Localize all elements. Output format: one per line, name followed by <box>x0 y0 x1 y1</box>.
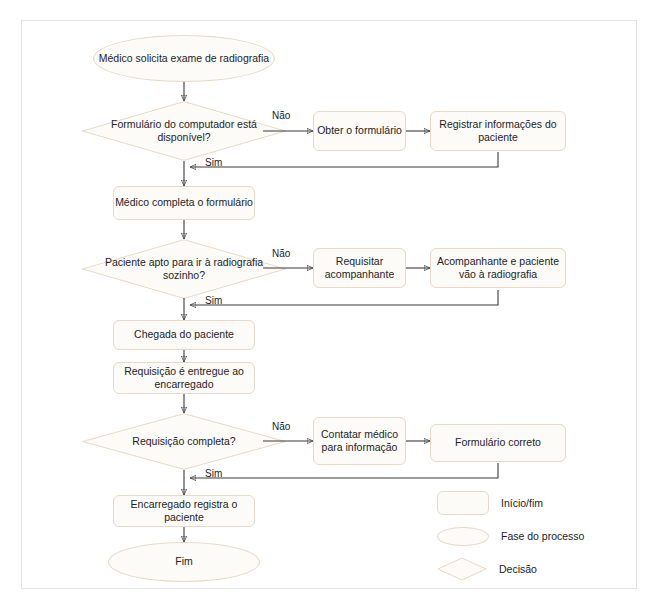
node-encarregado-registra[interactable]: Encarregado registra o paciente <box>113 495 255 527</box>
node-encarregado-registra-label: Encarregado registra o paciente <box>114 498 254 525</box>
node-end-label: Fim <box>175 555 193 568</box>
node-chegada-paciente[interactable]: Chegada do paciente <box>113 320 255 350</box>
legend-swatch-rounded-rect-icon <box>437 491 489 515</box>
node-end[interactable]: Fim <box>108 542 260 582</box>
legend-label-fase-processo: Fase do processo <box>501 530 584 542</box>
node-decision-form-available[interactable]: Formulário do computador está disponível… <box>82 101 286 161</box>
node-decision-patient-alone[interactable]: Paciente apto para ir à radiografia sozi… <box>82 239 286 299</box>
node-registrar-informacoes-label: Registrar informações do paciente <box>431 118 565 145</box>
node-contatar-medico-label: Contatar médico para informação <box>314 428 405 455</box>
node-obter-formulario[interactable]: Obter o formulário <box>313 111 406 151</box>
legend-item-inicio-fim: Início/fim <box>437 490 617 516</box>
diamond-shape <box>437 557 487 581</box>
node-decision-form-available-label: Formulário do computador está disponível… <box>82 118 286 145</box>
legend-label-decisao: Decisão <box>499 563 537 575</box>
legend-item-decisao: Decisão <box>437 556 617 582</box>
node-chegada-paciente-label: Chegada do paciente <box>134 328 234 341</box>
node-formulario-correto[interactable]: Formulário correto <box>430 424 566 462</box>
node-contatar-medico[interactable]: Contatar médico para informação <box>313 417 406 465</box>
legend-label-inicio-fim: Início/fim <box>501 497 543 509</box>
edge-label-d1-yes: Sim <box>205 157 222 168</box>
legend-item-fase-processo: Fase do processo <box>437 523 617 549</box>
node-decision-requisicao-completa-label: Requisição completa? <box>126 435 241 448</box>
edge-label-d1-no: Não <box>272 110 290 121</box>
node-requisicao-entregue-label: Requisição é entregue ao encarregado <box>114 365 254 392</box>
node-acompanhante-paciente-radiografia[interactable]: Acompanhante e paciente vão à radiografi… <box>430 248 566 288</box>
node-formulario-correto-label: Formulário correto <box>455 436 541 449</box>
edge-label-d3-yes: Sim <box>205 468 222 479</box>
legend-swatch-diamond-icon <box>437 557 487 581</box>
node-registrar-informacoes[interactable]: Registrar informações do paciente <box>430 111 566 151</box>
node-acompanhante-paciente-radiografia-label: Acompanhante e paciente vão à radiografi… <box>431 255 565 282</box>
node-decision-patient-alone-label: Paciente apto para ir à radiografia sozi… <box>82 256 286 283</box>
node-start-label: Médico solicita exame de radiografia <box>99 52 269 65</box>
legend-swatch-ellipse-icon <box>437 527 489 546</box>
footnote-caption <box>46 598 606 607</box>
node-requisitar-acompanhante-label: Requisitar acompanhante <box>314 255 405 282</box>
legend: Início/fim Fase do processo Decisão <box>437 490 617 582</box>
node-requisitar-acompanhante[interactable]: Requisitar acompanhante <box>313 248 406 288</box>
node-requisicao-entregue[interactable]: Requisição é entregue ao encarregado <box>113 362 255 394</box>
node-start[interactable]: Médico solicita exame de radiografia <box>93 35 275 82</box>
node-decision-requisicao-completa[interactable]: Requisição completa? <box>82 413 286 470</box>
node-medico-completa-formulario[interactable]: Médico completa o formulário <box>113 186 255 220</box>
edge-label-d2-yes: Sim <box>205 295 222 306</box>
edge-label-d3-no: Não <box>272 421 290 432</box>
edge-label-d2-no: Não <box>272 248 290 259</box>
flowchart-canvas: Médico solicita exame de radiografia For… <box>0 0 660 607</box>
node-medico-completa-formulario-label: Médico completa o formulário <box>115 196 253 209</box>
node-obter-formulario-label: Obter o formulário <box>317 124 402 137</box>
